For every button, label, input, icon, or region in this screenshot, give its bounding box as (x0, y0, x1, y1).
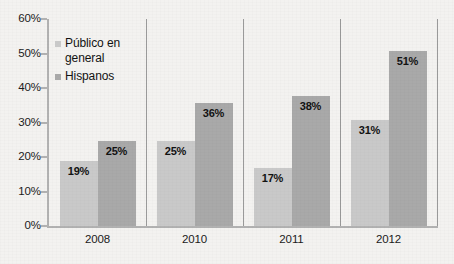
x-axis-tick-label: 2010 (146, 233, 243, 245)
legend-item: Hispanos (55, 69, 143, 84)
bar-2010-series0: 25% (157, 141, 195, 227)
y-axis-tick-label: 0% (0, 219, 41, 232)
bar-2011-series1: 38% (292, 96, 330, 227)
bar-value-label: 25% (98, 145, 136, 157)
y-axis-tick-label: 20% (0, 150, 41, 163)
bar-value-label: 38% (292, 100, 330, 112)
bar-value-label: 17% (254, 172, 292, 184)
bar-chart: 0%10%20%30%40%50%60% 19%25%25%36%17%38%3… (0, 0, 454, 264)
y-axis-tick-label-text: 10% (3, 185, 41, 197)
legend-item: Público en general (55, 36, 143, 66)
y-axis-tick-label: 10% (0, 185, 41, 198)
bar-value-label: 19% (60, 165, 98, 177)
y-axis-tick-label-text: 20% (3, 150, 41, 162)
legend-swatch-icon (55, 74, 61, 80)
y-axis-tick-label: 30% (0, 116, 41, 129)
x-axis-tick-label: 2011 (243, 233, 340, 245)
legend-swatch-icon (55, 41, 61, 47)
group-separator (146, 19, 147, 226)
y-axis-tick-label-text: 30% (3, 116, 41, 128)
x-axis-line (47, 226, 438, 228)
bar-2008-series0: 19% (60, 161, 98, 227)
x-axis-tick-label: 2008 (49, 233, 146, 245)
y-axis-tick-label: 60% (0, 12, 41, 25)
bar-value-label: 25% (157, 145, 195, 157)
y-axis-tick-label: 50% (0, 47, 41, 60)
y-axis-tick-label-text: 0% (3, 219, 41, 231)
bar-2010-series1: 36% (195, 103, 233, 227)
bar-2011-series0: 17% (254, 168, 292, 227)
y-axis-tick-label-text: 40% (3, 81, 41, 93)
chart-legend: Público en generalHispanos (55, 36, 143, 87)
bar-2012-series1: 51% (389, 51, 427, 227)
y-axis-tick-label-text: 60% (3, 12, 41, 24)
group-separator (340, 19, 341, 226)
bar-2012-series0: 31% (351, 120, 389, 227)
bar-2008-series1: 25% (98, 141, 136, 227)
y-axis-tick-label-text: 50% (3, 47, 41, 59)
group-separator (243, 19, 244, 226)
x-axis-tick-label: 2012 (340, 233, 437, 245)
y-axis-tick-label: 40% (0, 81, 41, 94)
legend-item-label: Hispanos (65, 69, 114, 84)
bar-value-label: 36% (195, 107, 233, 119)
bar-value-label: 51% (389, 55, 427, 67)
bar-value-label: 31% (351, 124, 389, 136)
plot-right-border (437, 19, 438, 226)
legend-item-label: Público en general (65, 36, 143, 66)
